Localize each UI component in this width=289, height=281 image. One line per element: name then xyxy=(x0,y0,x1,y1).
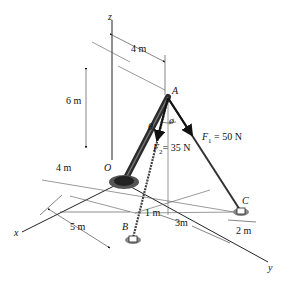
point-C-label: C xyxy=(242,196,249,206)
force-F1-label: F1 = 50 N xyxy=(202,132,242,145)
dim-3m: 3m xyxy=(175,218,188,228)
z-axis-label: z xyxy=(108,12,112,22)
dim-left-4m: 4 m xyxy=(56,163,71,173)
y-axis xyxy=(122,182,268,262)
x-axis-label: x xyxy=(14,228,18,238)
angle-phi-label: ø xyxy=(169,116,174,126)
F2-value: = 35 N xyxy=(163,142,191,153)
force-F2-label: F2= 35 N xyxy=(153,143,190,156)
dim-top-4m: 4 m xyxy=(131,44,146,54)
dim-height-6m: 6 m xyxy=(66,96,81,106)
point-O-label: O xyxy=(104,163,111,173)
dim-2m: 2 m xyxy=(236,226,251,236)
dim-1m: 1 m xyxy=(145,208,160,218)
F1-value: = 50 N xyxy=(212,131,242,142)
dim-x-5m: 5 m xyxy=(70,222,85,232)
y-axis-label: y xyxy=(268,263,272,273)
point-B-label: B xyxy=(122,222,128,232)
point-A-label: A xyxy=(172,86,178,96)
angle-theta-label: θ xyxy=(148,122,153,132)
statics-diagram: z x y O A B C 4 m 6 m 4 m 5 m 1 m 3m 2 m… xyxy=(0,0,289,281)
